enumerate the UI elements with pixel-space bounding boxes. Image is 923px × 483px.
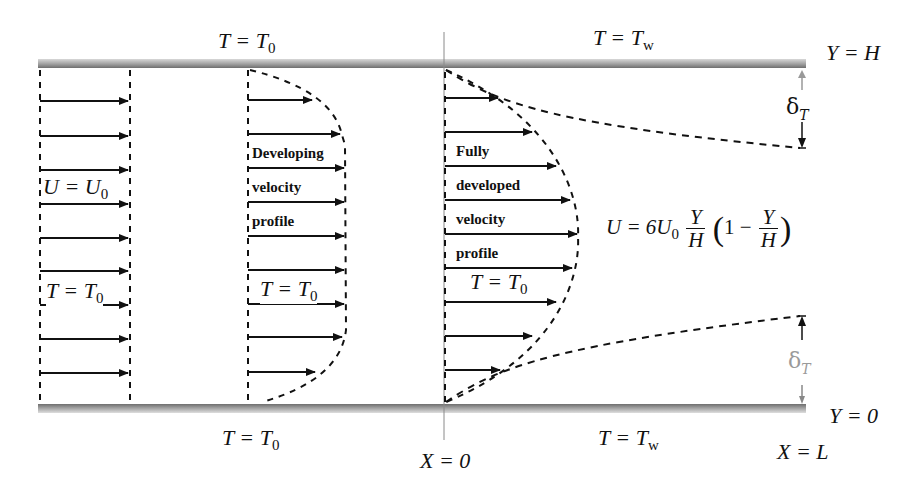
fully-developed-text-line-4: profile	[455, 246, 499, 261]
label-text: T = T	[593, 25, 643, 50]
thermal-boundary-bottom	[446, 316, 800, 402]
label-text: T = T	[218, 28, 268, 53]
label-sub: 0	[310, 288, 318, 304]
label-sub: w	[643, 37, 654, 53]
y-equals-h-label: Y = H	[826, 42, 880, 64]
top-wall	[38, 59, 806, 68]
delta-t-top-label: δT	[786, 96, 809, 122]
developing-text-line-1: Developing	[251, 146, 325, 161]
delta-symbol: δ	[788, 348, 801, 373]
label-text: T = T	[46, 278, 96, 303]
delta-symbol: δ	[786, 94, 799, 119]
y-equals-zero-label: Y = 0	[829, 405, 878, 427]
x-equals-zero-label: X = 0	[420, 450, 470, 472]
fraction-denominator: H	[686, 229, 705, 252]
top-right-temperature-label: T = Tw	[593, 27, 654, 53]
fully-developed-temperature-label: T = T0	[470, 271, 527, 297]
label-sub: 0	[101, 186, 109, 202]
developing-temperature-label: T = T0	[260, 278, 317, 304]
delta-t-bottom-label: δT	[788, 350, 811, 376]
inlet-temperature-label: T = T0	[46, 280, 103, 306]
fraction-numerator: Y	[686, 206, 705, 229]
fraction-numerator: Y	[759, 206, 778, 229]
label-sub: 0	[272, 437, 280, 453]
formula-lhs-sub: 0	[672, 226, 680, 242]
x-equals-l-label: X = L	[777, 441, 829, 463]
fully-developed-text-line-3: velocity	[455, 212, 506, 227]
fully-developed-text-line-1: Fully	[455, 144, 490, 159]
label-text: T = T	[470, 269, 520, 294]
label-sub: 0	[268, 40, 276, 56]
paren-close: )	[780, 210, 791, 247]
fraction-y-over-h-2: Y H	[759, 206, 778, 252]
channel-flow-diagram: T = T0 T = Tw Y = H T = T0 T = Tw Y = 0 …	[0, 0, 923, 483]
fully-developed-profile	[445, 70, 578, 402]
developing-text-line-3: profile	[251, 214, 295, 229]
formula-lhs: U = 6U	[606, 215, 672, 239]
label-text: T = T	[260, 276, 310, 301]
label-text: T = T	[598, 425, 648, 450]
thermal-boundary-top	[446, 70, 800, 148]
bottom-wall	[38, 404, 806, 413]
label-sub: 0	[96, 290, 104, 306]
inlet-profile	[40, 70, 130, 402]
label-sub: 0	[520, 281, 528, 297]
top-left-temperature-label: T = T0	[218, 30, 275, 56]
delta-sub: T	[799, 107, 808, 123]
fraction-denominator: H	[759, 229, 778, 252]
delta-sub: T	[801, 361, 810, 377]
velocity-formula: U = 6U0 Y H (1 − Y H )	[606, 206, 791, 252]
label-sub: w	[648, 437, 659, 453]
developing-profile	[248, 70, 346, 402]
bottom-right-temperature-label: T = Tw	[598, 427, 659, 453]
fraction-y-over-h: Y H	[686, 206, 705, 252]
one-minus: 1 −	[724, 215, 752, 239]
fully-developed-text-line-2: developed	[455, 178, 521, 193]
developing-text-line-2: velocity	[251, 180, 302, 195]
paren-open: (	[713, 210, 724, 247]
inlet-velocity-label: U = U0	[43, 176, 108, 202]
label-text: T = T	[222, 425, 272, 450]
label-text: U = U	[43, 174, 101, 199]
bottom-left-temperature-label: T = T0	[222, 427, 279, 453]
